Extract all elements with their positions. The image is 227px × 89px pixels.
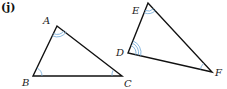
svg-text:F: F xyxy=(214,67,223,78)
svg-text:B: B xyxy=(21,77,29,88)
svg-text:D: D xyxy=(115,47,124,58)
svg-text:A: A xyxy=(42,15,50,26)
svg-text:E: E xyxy=(131,5,140,16)
svg-text:C: C xyxy=(124,78,132,89)
part-label: (j) xyxy=(1,1,15,14)
triangle-def: E D F xyxy=(115,3,223,78)
similar-triangles-diagram: (j) A B C E D F xyxy=(0,0,227,89)
